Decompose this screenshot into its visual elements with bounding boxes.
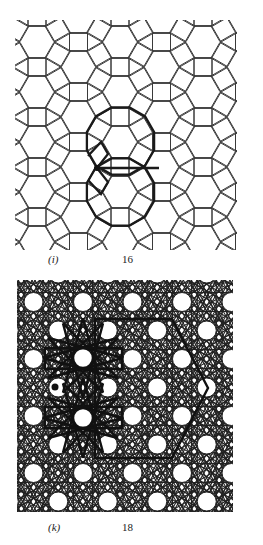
figure-i-tiling: [0, 0, 263, 258]
figure-k-number: 18: [122, 521, 133, 533]
figure-i-number: 16: [122, 253, 133, 265]
figure-k-label: (k): [48, 521, 60, 533]
marked-vertex-dot: [94, 165, 100, 171]
figure-i-label: (i): [48, 253, 58, 265]
tiling-3-4-6-4-diagram: [0, 0, 263, 258]
marked-vertex-dot: [52, 384, 59, 391]
star-lattice-diagram: [0, 268, 263, 518]
figure-k-pattern: [0, 268, 263, 518]
tiling-lines: [0, 0, 263, 258]
